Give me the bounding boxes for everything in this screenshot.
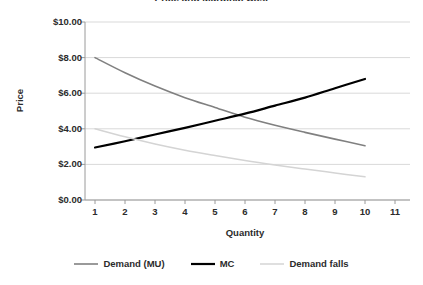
legend-label: Demand falls xyxy=(289,258,348,269)
legend-line-icon xyxy=(260,260,284,268)
legend-item[interactable]: Demand falls xyxy=(260,258,348,269)
y-tick-label: $2.00 xyxy=(28,159,82,169)
x-tick-label: 7 xyxy=(265,206,285,217)
x-tick-label: 9 xyxy=(325,206,345,217)
y-tick-label: $0.00 xyxy=(28,195,82,205)
x-tick-label: 10 xyxy=(355,206,375,217)
y-tick-label-wrap: $4.00 xyxy=(24,124,82,134)
y-tick-label-wrap: $10.00 xyxy=(24,17,82,27)
chart-legend: Demand (MU)MCDemand falls xyxy=(0,258,423,269)
x-tick-label: 11 xyxy=(385,206,405,217)
y-tick-label-wrap: $6.00 xyxy=(24,88,82,98)
y-tick-label: $8.00 xyxy=(28,53,82,63)
y-tick-label: $4.00 xyxy=(28,124,82,134)
series-line xyxy=(95,58,365,146)
y-tick-label: $6.00 xyxy=(28,88,82,98)
x-tick-label: 8 xyxy=(295,206,315,217)
y-tick-label-wrap: $0.00 xyxy=(24,195,82,205)
legend-item[interactable]: MC xyxy=(191,258,235,269)
legend-label: Demand (MU) xyxy=(103,258,164,269)
legend-line-icon xyxy=(74,260,98,268)
x-tick-label: 1 xyxy=(85,206,105,217)
y-axis-title: Price xyxy=(14,71,25,131)
x-tick-label: 6 xyxy=(235,206,255,217)
x-tick-label: 2 xyxy=(115,206,135,217)
y-tick-label-wrap: $8.00 xyxy=(24,53,82,63)
x-tick-label: 5 xyxy=(205,206,225,217)
legend-line-icon xyxy=(191,260,215,268)
x-axis-title: Quantity xyxy=(95,227,395,238)
y-tick-label: $10.00 xyxy=(28,17,82,27)
chart-container: Price and Marginal Cost Price Quantity $… xyxy=(0,0,423,285)
legend-label: MC xyxy=(220,258,235,269)
legend-item[interactable]: Demand (MU) xyxy=(74,258,164,269)
x-tick-label: 4 xyxy=(175,206,195,217)
y-tick-label-wrap: $2.00 xyxy=(24,159,82,169)
x-tick-label: 3 xyxy=(145,206,165,217)
plot-area xyxy=(0,0,423,285)
